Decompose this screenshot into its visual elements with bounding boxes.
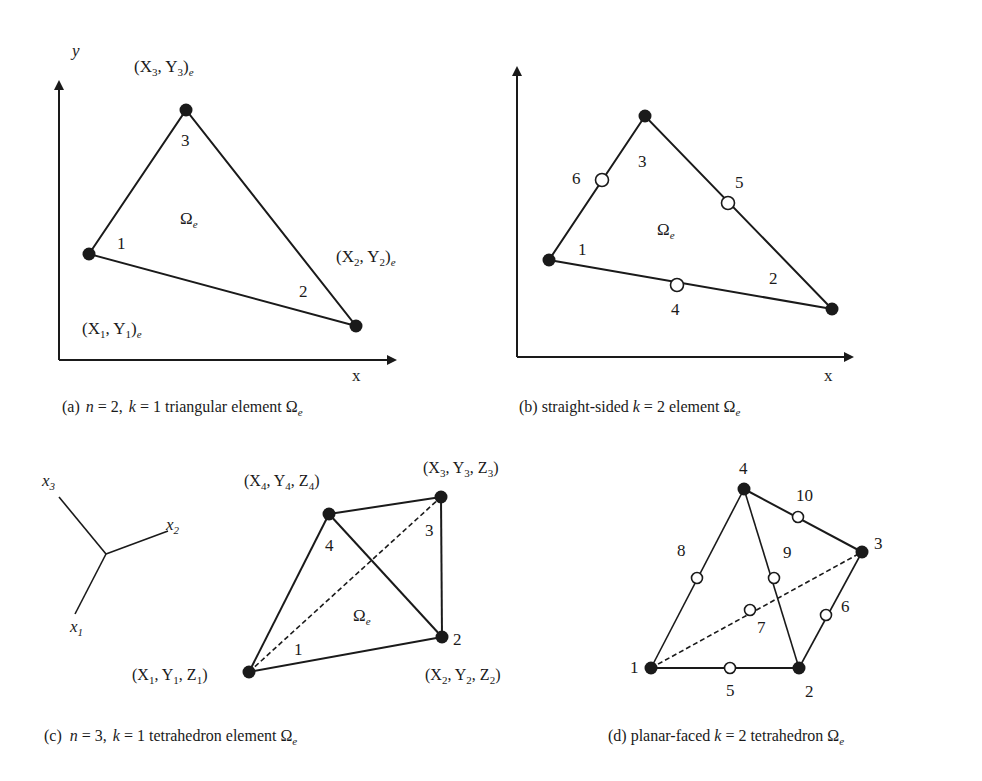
node-2-label: 2 [299, 282, 308, 301]
x1-label: x1 [69, 617, 83, 638]
midside-6-label: 6 [572, 169, 581, 188]
vertex-2-label: 2 [453, 630, 462, 649]
midside-5-label: 5 [735, 173, 744, 192]
midside-5-label: 5 [726, 681, 735, 700]
omega-label: Ωe [657, 220, 675, 241]
node-3-coord: (X3, Y3)e [134, 57, 194, 78]
node-1-label: 1 [117, 234, 126, 253]
coordinate-triad: x3 x2 x1 [41, 471, 180, 638]
x-axis-label: x [352, 366, 361, 385]
x3-label: x3 [41, 471, 56, 492]
midside-node-7 [745, 605, 756, 616]
vertex-3-coord: (X3, Y3, Z3) [423, 459, 498, 479]
vertex-2 [826, 303, 839, 316]
vertex-3 [856, 546, 869, 559]
node-1-coord: (X1, Y1)e [82, 319, 142, 340]
midside-node-5 [725, 663, 736, 674]
midside-node-9 [769, 573, 780, 584]
x2-label: x2 [165, 515, 180, 536]
vertex-2-coord: (X2, Y2, Z2) [425, 666, 500, 686]
vertex-1-coord: (X1, Y1, Z1) [132, 666, 207, 686]
vertex-4-label: 4 [325, 536, 334, 555]
hidden-edge [249, 497, 441, 672]
midside-node-6 [821, 610, 832, 621]
panel-a-triangular-element: y x 1 2 3 Ωe (X3, Y3)e (X2, Y2)e (X1, Y1… [59, 41, 396, 418]
x-axis-label: x [824, 366, 833, 385]
vertex-1-label: 1 [630, 658, 639, 677]
omega-label: Ωe [180, 209, 198, 230]
vertex-3 [639, 110, 652, 123]
vertex-2-label: 2 [769, 269, 778, 288]
finite-element-figure: y x 1 2 3 Ωe (X3, Y3)e (X2, Y2)e (X1, Y1… [0, 0, 982, 781]
midside-node-10 [793, 512, 804, 523]
omega-label: Ωe [353, 606, 371, 627]
caption-c: (c) n = 3, k = 1 tetrahedron element Ωe [44, 727, 297, 747]
vertex-1-label: 1 [294, 640, 303, 659]
vertex-3-label: 3 [638, 152, 647, 171]
midside-node-6 [596, 174, 609, 187]
midside-4-label: 4 [671, 300, 680, 319]
caption-d: (d) planar-faced k = 2 tetrahedron Ωe [608, 727, 844, 747]
vertex-1 [645, 662, 658, 675]
caption-a: (a)n = 2,k = 1 triangular element Ωe [62, 398, 303, 418]
node-2-coord: (X2, Y2)e [336, 247, 396, 268]
node-2 [350, 320, 363, 333]
midside-8-label: 8 [677, 541, 686, 560]
triangle-element [549, 116, 832, 309]
node-3-label: 3 [181, 131, 190, 150]
triangle-element [89, 110, 356, 326]
vertex-3 [435, 491, 448, 504]
vertex-4-coord: (X4, Y4, Z4) [244, 472, 319, 492]
midside-7-label: 7 [757, 618, 766, 637]
midside-node-4 [671, 279, 684, 292]
panel-b-quadratic-triangle: x 1 2 3 4 5 6 Ωe (b) straight-sided k = … [517, 68, 852, 418]
caption-b: (b) straight-sided k = 2 element Ωe [519, 398, 740, 418]
vertex-1 [543, 254, 556, 267]
midside-node-5 [722, 197, 735, 210]
node-1 [83, 248, 96, 261]
vertex-4 [738, 483, 751, 496]
midside-6-label: 6 [841, 597, 850, 616]
vertex-3-label: 3 [874, 534, 883, 553]
vertex-1-label: 1 [578, 240, 587, 259]
vertex-2 [436, 631, 449, 644]
midside-10-label: 10 [796, 486, 813, 505]
vertex-1 [243, 666, 256, 679]
vertex-3-label: 3 [425, 521, 434, 540]
vertex-2-label: 2 [805, 682, 814, 701]
vertex-4-label: 4 [739, 459, 748, 478]
midside-9-label: 9 [783, 543, 792, 562]
vertex-4 [323, 508, 336, 521]
y-axis-label: y [70, 41, 80, 60]
vertex-2 [793, 662, 806, 675]
panel-d-quadratic-tetrahedron: 1 2 3 4 5 6 7 8 9 10 (d) planar-faced k … [608, 459, 883, 747]
midside-node-8 [692, 573, 703, 584]
panel-c-tetrahedron: x3 x2 x1 1 2 3 4 Ωe (X1, Y1, Z1) (X2, Y2… [41, 459, 500, 747]
node-3 [180, 104, 193, 117]
